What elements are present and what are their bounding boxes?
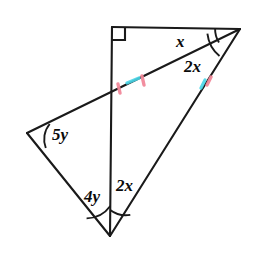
angle-label-x: x: [176, 33, 185, 50]
angle-label-2x-bottom: 2x: [116, 177, 133, 194]
vertical-edge: [110, 27, 112, 236]
top-edge: [112, 27, 240, 29]
left-lower-edge: [27, 133, 110, 236]
cevian-tick-marks: [118, 76, 144, 93]
angle-label-4y: 4y: [84, 188, 100, 205]
angle-label-5y: 5y: [52, 126, 68, 143]
arc-2x-at-bottom-vertex: [110, 210, 130, 215]
angle-label-2x-right: 2x: [184, 58, 201, 75]
tick-on-cevian-right: [142, 76, 144, 85]
tick-on-bottom-right-edge-pink: [207, 77, 211, 85]
arc-5y-at-left-vertex: [44, 124, 50, 148]
geometry-figure: x 2x 5y 4y 2x: [0, 0, 260, 256]
tick-on-cevian-left: [118, 84, 120, 93]
right-angle-marker: [112, 27, 125, 40]
geometry-canvas: [0, 0, 260, 256]
